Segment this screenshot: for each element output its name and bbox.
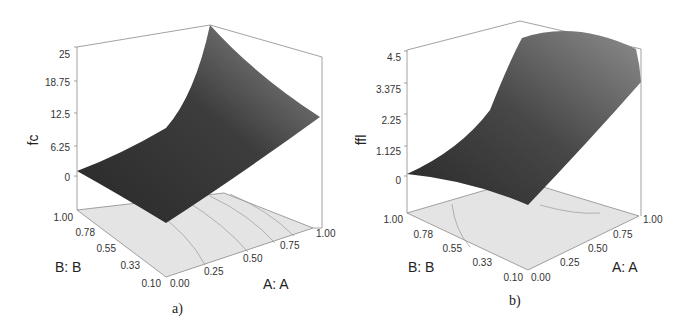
plot-a-z-tick: 6.25 <box>51 142 71 153</box>
plot-b-z-tick: 1.125 <box>376 146 401 157</box>
plot-b-b-label: B: B <box>408 259 434 275</box>
plot-b-z-label: ffl <box>353 135 369 146</box>
plot-b-b-tick: 1.00 <box>384 214 404 225</box>
plot-a-z-label: fc <box>25 135 41 146</box>
plot-a-a-label: A: A <box>263 276 289 292</box>
plot-a-b-tick: 0.10 <box>142 278 162 289</box>
plot-a-a-tick: 0.75 <box>280 240 300 251</box>
plot-a-z-tick: 12.5 <box>51 109 71 120</box>
plot-b-z-tick: 3.375 <box>376 84 401 95</box>
plot-b-a-tick: 0.50 <box>588 243 608 254</box>
plot-a-b-label: B: B <box>55 259 81 275</box>
plot-a-z-tick: 25 <box>59 49 71 60</box>
plot-b-z-tick: 2.25 <box>382 115 402 126</box>
plot-a-a-tick: 0.50 <box>243 253 263 264</box>
plot-b-a-label: A: A <box>612 259 638 275</box>
plot-b-b-tick: 0.10 <box>504 272 524 283</box>
plot-b-z-axis: 4.5 3.375 2.25 1.125 0 <box>376 51 407 186</box>
plot-a-b-tick: 0.33 <box>121 260 141 271</box>
plot-b-caption: b) <box>509 293 521 309</box>
plot-b: 4.5 3.375 2.25 1.125 0 ffl 1.00 0.78 0.5… <box>353 21 663 309</box>
plot-a-a-tick: 0.00 <box>170 278 190 289</box>
plot-b-a-tick: 0.00 <box>531 272 551 283</box>
plot-b-b-tick: 0.78 <box>414 229 434 240</box>
plot-a-frame <box>77 25 210 47</box>
plot-b-z-tick: 4.5 <box>387 52 401 63</box>
plot-b-z-tick: 0 <box>395 175 401 186</box>
plot-a-b-tick: 0.78 <box>76 227 96 238</box>
plot-a-a-tick: 0.25 <box>204 266 224 277</box>
plot-a-b-tick: 0.55 <box>97 243 117 254</box>
plot-a-z-axis: 25 18.75 12.5 6.25 0 <box>45 47 77 183</box>
plot-b-a-tick: 1.00 <box>643 214 663 225</box>
chart-canvas: 25 18.75 12.5 6.25 0 fc 1.00 0.78 0.55 0… <box>0 0 690 331</box>
plot-a-floor <box>77 193 313 277</box>
plot-b-surface-mesh <box>407 31 641 205</box>
plot-a-surface-mesh <box>77 25 320 223</box>
plot-b-a-tick: 0.75 <box>613 229 633 240</box>
plot-a-z-tick: 18.75 <box>45 77 70 88</box>
plot-a-caption: a) <box>172 301 183 317</box>
plot-a-a-tick: 1.00 <box>316 228 336 239</box>
plot-a-z-tick: 0 <box>64 172 70 183</box>
plot-b-a-tick: 0.25 <box>560 257 580 268</box>
plot-b-b-tick: 0.33 <box>473 257 493 268</box>
plot-b-b-tick: 0.55 <box>443 243 463 254</box>
plot-b-frame <box>407 21 520 50</box>
plot-a: 25 18.75 12.5 6.25 0 fc 1.00 0.78 0.55 0… <box>25 25 336 317</box>
plot-a-b-tick: 1.00 <box>54 212 74 223</box>
